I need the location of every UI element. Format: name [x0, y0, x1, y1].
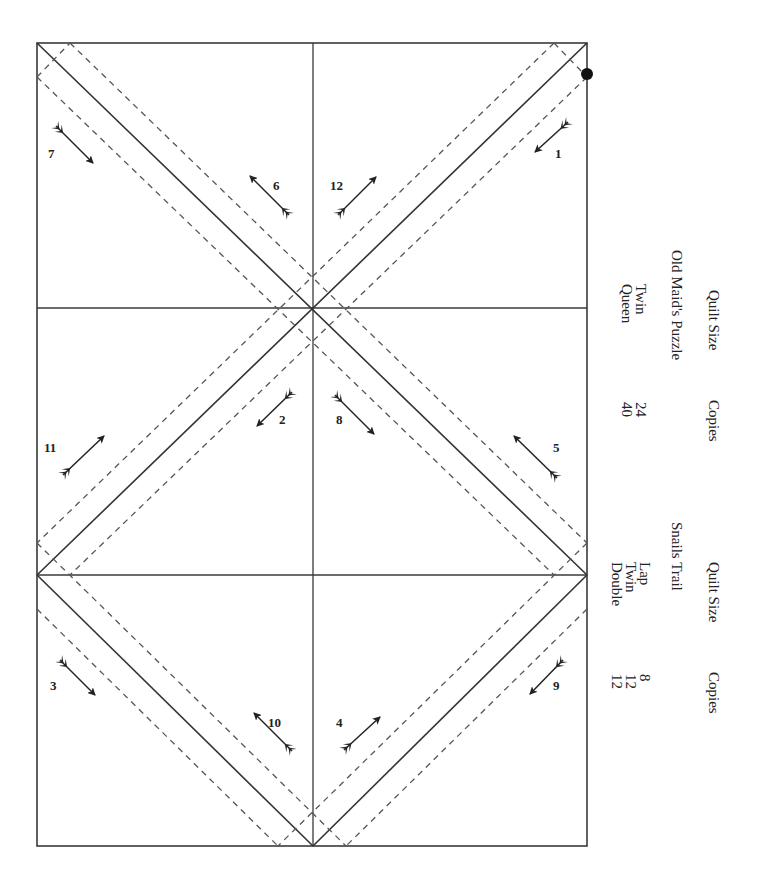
pattern-name: Snails Trail — [668, 522, 685, 591]
seam-lines — [37, 43, 587, 846]
column-header-quilt-size: Quilt Size — [705, 562, 722, 622]
piece-number: 4 — [336, 715, 343, 730]
grid-lines — [37, 43, 587, 846]
copies-cell: 12 — [624, 674, 638, 689]
copies-cell: 12 — [610, 674, 624, 689]
copies-cell: 24 — [634, 402, 648, 417]
seam-allowance-lines — [37, 43, 587, 846]
start-dot — [581, 68, 593, 80]
copies-cell: 8 — [638, 674, 652, 682]
piece-number: 7 — [48, 146, 55, 161]
piece-number: 12 — [330, 178, 343, 193]
arrow-11-icon — [63, 436, 104, 475]
quilt-size-cell: Twin — [624, 562, 638, 593]
quilt-size-cell: Lap — [638, 562, 652, 585]
piece-number: 2 — [279, 412, 286, 427]
column-header-copies: Copies — [705, 400, 722, 442]
table-old-maids-puzzle: Quilt Size Copies Old Maid's Puzzle Twin… — [622, 290, 722, 450]
piece-number: 9 — [553, 678, 560, 693]
piece-number: 10 — [268, 715, 281, 730]
grain-arrows — [56, 122, 568, 751]
arrow-1-icon — [535, 122, 568, 152]
piece-number: 6 — [273, 178, 280, 193]
piece-number: 11 — [44, 440, 56, 455]
quilt-size-cell: Twin — [634, 284, 648, 315]
piece-number: 1 — [555, 146, 562, 161]
arrow-5-icon — [514, 436, 557, 478]
table-snails-trail: Quilt Size Copies Snails Trail Lap 8 Twi… — [612, 562, 722, 722]
piece-number: 3 — [50, 678, 57, 693]
pattern-name: Old Maid's Puzzle — [668, 250, 685, 360]
copies-cell: 40 — [620, 402, 634, 417]
column-header-quilt-size: Quilt Size — [705, 290, 722, 350]
arrow-3-icon — [60, 660, 95, 695]
pattern-frame — [37, 43, 587, 846]
quilt-size-cell: Double — [610, 562, 624, 606]
quilt-size-cell: Queen — [620, 284, 634, 323]
column-header-copies: Copies — [705, 672, 722, 714]
arrow-12-icon — [338, 177, 376, 215]
arrow-7-icon — [56, 126, 93, 163]
arrow-6-icon — [250, 176, 289, 215]
piece-number: 5 — [553, 440, 560, 455]
arrow-2-icon — [257, 392, 292, 426]
piece-numbers: 1 2 3 4 5 6 7 8 9 10 11 12 — [44, 146, 562, 730]
piece-number: 8 — [336, 412, 343, 427]
arrow-4-icon — [344, 717, 380, 750]
